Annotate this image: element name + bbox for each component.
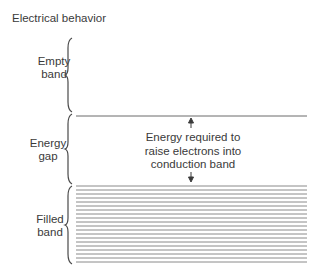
filled-band-lines (76, 186, 307, 262)
down-arrowhead-icon (189, 177, 194, 182)
band-diagram (0, 0, 323, 275)
energy-gap-brace-icon (65, 114, 72, 184)
empty-band-brace-icon (65, 38, 72, 112)
up-arrowhead-icon (189, 118, 194, 123)
brace-icons (65, 38, 72, 264)
filled-band-brace-icon (65, 186, 72, 264)
arrow-icons (189, 118, 194, 182)
